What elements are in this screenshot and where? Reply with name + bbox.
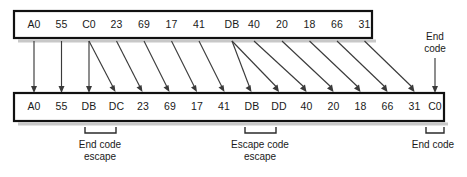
annotation-escape-code-escape-line1: Escape code [231,139,289,150]
cell-out-1: 55 [56,100,68,112]
cell-out-8: DB [245,100,260,112]
cell-in-3: 23 [111,18,123,30]
cell-out-3: DC [109,100,125,112]
cell-in-2: C0 [82,18,96,30]
bracket-end-code-escape [85,127,116,133]
bracket-end-code [426,127,444,133]
cell-in-6: 41 [193,18,205,30]
connector-41 [199,41,222,87]
arrowhead-41 [219,85,225,92]
connector-group [31,41,438,93]
connector-db-dd [232,41,277,87]
cell-in-10: 18 [304,18,316,30]
arrowhead-17 [191,85,197,92]
connector-40 [254,41,304,87]
cell-in-4: 69 [138,18,150,30]
annotation-end-code-top-line2: code [424,43,446,54]
arrowhead-23 [137,85,143,92]
connector-c0-dc [89,41,113,87]
cell-out-6: 17 [191,100,203,112]
annotation-end-code-top: End code [424,31,446,54]
annotation-escape-code-escape-line2: escape [244,151,277,162]
cell-out-7: 41 [218,100,230,112]
connector-23 [117,41,141,87]
cell-out-14: 31 [409,100,421,112]
arrowhead-db-db [246,85,252,92]
cell-in-7: DB [225,18,240,30]
annotation-end-code-escape-line2: escape [84,151,117,162]
annotation-end-code-escape-line1: End code [79,139,122,150]
arrowhead-69 [164,85,170,92]
cell-in-1: 55 [56,18,68,30]
cell-out-11: 20 [328,100,340,112]
cell-out-9: DD [271,100,287,112]
diagram-svg: A0 55 C0 23 69 17 41 DB 40 20 18 66 31 A… [0,0,467,177]
bottom-box-shadow [18,123,448,126]
connector-20 [282,41,331,87]
cell-in-9: 20 [276,18,288,30]
connector-66 [337,41,385,87]
cell-in-0: A0 [27,18,40,30]
cell-out-5: 69 [164,100,176,112]
cell-out-10: 40 [301,100,313,112]
annotation-end-code-bottom-line1: End code [412,139,455,150]
cell-in-5: 17 [166,18,178,30]
cell-out-12: 18 [355,100,367,112]
cell-out-4: 23 [137,100,149,112]
connector-17 [172,41,195,87]
connector-69 [144,41,167,87]
connector-18 [310,41,359,87]
arrowhead-c0-dc [110,85,116,92]
cell-out-0: A0 [27,100,40,112]
diagram-canvas: A0 55 C0 23 69 17 41 DB 40 20 18 66 31 A… [0,0,467,177]
annotation-end-code-escape: End code escape [79,139,122,162]
cell-in-12: 31 [359,18,371,30]
cell-in-8: 40 [248,18,260,30]
cell-out-2: DB [82,100,97,112]
annotation-escape-code-escape: Escape code escape [231,139,289,162]
cell-out-13: 66 [382,100,394,112]
connector-31 [365,41,413,87]
cell-in-11: 66 [331,18,343,30]
annotation-end-code-bottom: End code [412,139,455,150]
bracket-escape-code-escape [245,127,276,133]
annotation-end-code-top-line1: End [426,31,444,42]
top-box-shadow [18,40,376,43]
connector-db-db [232,41,250,87]
cell-out-15: C0 [428,100,442,112]
